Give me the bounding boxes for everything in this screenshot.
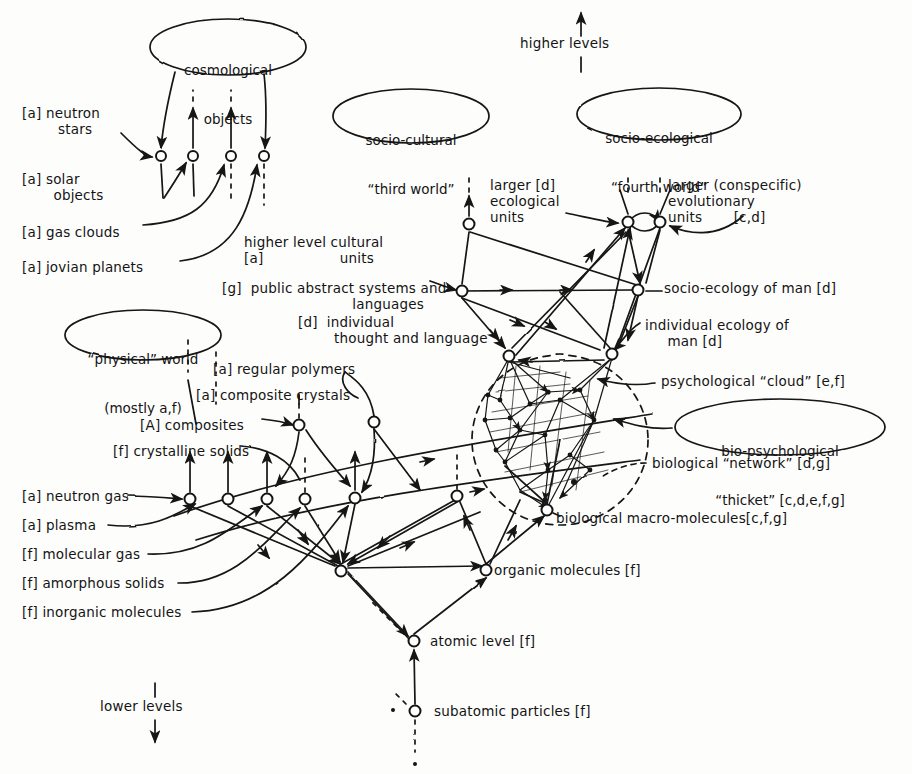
- ellipse-line-1: socio-ecological: [577, 130, 741, 146]
- label-individual-thought-and-language: [d] individual thought and language: [298, 315, 488, 347]
- ellipse-label-cosmological-objects: cosmological objects: [150, 30, 306, 160]
- node-lower-5: [350, 493, 361, 504]
- label-inorganic-molecules: [f] inorganic molecules: [22, 605, 181, 621]
- label-higher-level-cultural-units: higher level cultural [a] units: [244, 235, 383, 267]
- label-atomic-level: atomic level [f]: [430, 634, 535, 650]
- ellipse-label-socio-ecological: socio-ecological “fourth world”: [577, 98, 741, 228]
- lower-levels-label: lower levels: [100, 699, 183, 715]
- label-solar-objects: [a] solar objects: [22, 172, 103, 204]
- ellipse-line-1: “physical” world: [65, 351, 221, 367]
- thicket-network: [483, 358, 612, 508]
- node-lower-1: [185, 494, 196, 505]
- label-larger-ecological-units: larger [d] ecological units: [490, 178, 560, 226]
- ellipse-line-1: cosmological: [150, 62, 306, 78]
- ellipse-line-2: “thicket” [c,d,e,f,g]: [675, 492, 885, 508]
- ellipse-label-bio-psychological-thicket: bio-psychological “thicket” [c,d,e,f,g]: [675, 411, 885, 541]
- node-composite-crystals: [369, 417, 380, 428]
- node-public-abstract-systems: [457, 286, 468, 297]
- ellipse-line-2: (mostly a,f): [65, 400, 221, 416]
- label-neutron-stars: [a] neutron stars: [22, 106, 100, 138]
- label-socio-ecology-of-man: socio-ecology of man [d]: [664, 281, 836, 297]
- ellipse-label-socio-cultural: socio-cultural “third world”: [333, 100, 489, 230]
- node-lower-6: [452, 491, 463, 502]
- label-jovian-planets: [a] jovian planets: [22, 260, 143, 276]
- ellipse-line-1: bio-psychological: [675, 443, 885, 459]
- label-public-abstract-systems: [g] public abstract systems and language…: [222, 281, 447, 313]
- node-individual-thought: [504, 351, 515, 362]
- node-molecular-hub: [336, 566, 347, 577]
- node-atomic-level: [409, 636, 420, 647]
- label-plasma: [a] plasma: [22, 518, 96, 534]
- label-regular-polymers: [a] regular polymers: [213, 362, 355, 378]
- ellipse-line-2: objects: [150, 111, 306, 127]
- node-organic-molecules: [481, 565, 492, 576]
- label-gas-clouds: [a] gas clouds: [22, 225, 120, 241]
- label-individual-ecology-of-man: individual ecology of man [d]: [645, 318, 789, 350]
- ellipse-label-physical-world: “physical” world (mostly a,f): [65, 319, 221, 449]
- label-organic-molecules: organic molecules [f]: [494, 563, 641, 579]
- ellipse-line-2: “fourth world”: [577, 179, 741, 195]
- ellipse-line-1: socio-cultural: [333, 132, 489, 148]
- node-socio-ecology-of-man: [633, 285, 644, 296]
- node-lower-2: [223, 494, 234, 505]
- node-lower-3: [262, 494, 273, 505]
- node-composites: [294, 420, 305, 431]
- label-molecular-gas: [f] molecular gas: [22, 547, 140, 563]
- higher-levels-label: higher levels: [520, 36, 609, 52]
- node-biological-macromolecules: [542, 505, 553, 516]
- node-individual-ecology-of-man: [607, 349, 618, 360]
- node-lower-4: [300, 494, 311, 505]
- label-amorphous-solids: [f] amorphous solids: [22, 576, 164, 592]
- label-subatomic-particles: subatomic particles [f]: [434, 704, 591, 720]
- ellipse-line-2: “third world”: [333, 181, 489, 197]
- node-subatomic-particles: [410, 706, 421, 717]
- label-neutron-gas: [a] neutron gas: [22, 489, 129, 505]
- label-psychological-cloud: psychological “cloud” [e,f]: [661, 374, 845, 390]
- diagram-canvas: cosmological objects socio-cultural “thi…: [0, 0, 912, 774]
